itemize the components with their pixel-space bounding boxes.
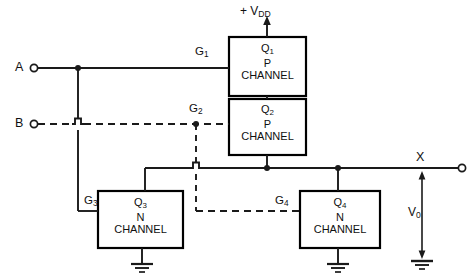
- q2-type-line1: P: [229, 118, 306, 130]
- input-label-b: B: [15, 117, 23, 130]
- q3-type-line1: N: [98, 211, 183, 223]
- output-voltage-label: V0: [408, 206, 421, 220]
- input-terminal-a[interactable]: [30, 64, 37, 71]
- q1-name: Q1: [229, 42, 306, 57]
- q1-type-line2: CHANNEL: [229, 69, 306, 81]
- output-node-label-x: X: [416, 151, 424, 164]
- gate-label-g2: G2: [189, 103, 203, 116]
- q1-type-line1: P: [229, 57, 306, 69]
- q4-name: Q4: [300, 196, 380, 211]
- transistor-label-q1: Q1 P CHANNEL: [229, 42, 306, 81]
- gate-label-g1: G1: [195, 46, 209, 59]
- junction-dot-q2-drain: [264, 165, 270, 171]
- transistor-label-q4: Q4 N CHANNEL: [300, 196, 380, 235]
- supply-label: + VDD: [240, 5, 271, 19]
- transistor-label-q2: Q2 P CHANNEL: [229, 103, 306, 142]
- gate-label-g4: G4: [275, 195, 289, 208]
- output-terminal-x[interactable]: [458, 164, 465, 171]
- transistor-label-q3: Q3 N CHANNEL: [98, 196, 183, 235]
- q3-name: Q3: [98, 196, 183, 211]
- gate-label-g3: G3: [84, 195, 98, 208]
- input-label-a: A: [15, 61, 23, 74]
- q2-name: Q2: [229, 103, 306, 118]
- q3-type-line2: CHANNEL: [98, 223, 183, 235]
- q4-type-line2: CHANNEL: [300, 223, 380, 235]
- q4-type-line1: N: [300, 211, 380, 223]
- input-terminal-b[interactable]: [30, 120, 37, 127]
- q2-type-line2: CHANNEL: [229, 130, 306, 142]
